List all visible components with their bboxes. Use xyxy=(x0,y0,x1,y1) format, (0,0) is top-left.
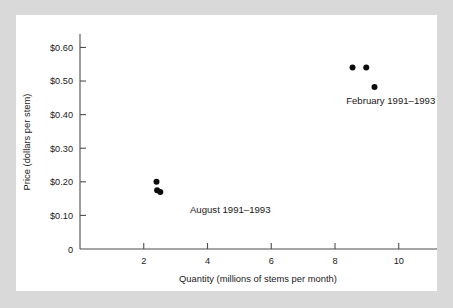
series-annotation-label: August 1991–1993 xyxy=(190,204,271,215)
y-tick-label: $0.30 xyxy=(50,144,73,154)
y-tick-label: $0.60 xyxy=(50,43,73,53)
x-axis-ticks: 246810 xyxy=(141,243,404,266)
y-tick-label: $0.20 xyxy=(50,177,73,187)
series-2 xyxy=(350,65,378,90)
x-tick-label: 6 xyxy=(269,256,274,266)
chart-panel: $0.10$0.20$0.30$0.40$0.50$0.60 246810 0 … xyxy=(16,15,437,291)
axes-group xyxy=(80,34,437,249)
series-1 xyxy=(154,179,164,195)
y-tick-label: $0.50 xyxy=(50,76,73,86)
scatter-plot: $0.10$0.20$0.30$0.40$0.50$0.60 246810 0 … xyxy=(16,15,437,291)
series-annotation-label: February 1991–1993 xyxy=(346,95,435,106)
figure-container: $0.10$0.20$0.30$0.40$0.50$0.60 246810 0 … xyxy=(0,0,453,308)
data-point xyxy=(157,189,163,195)
series-annotations-group: August 1991–1993February 1991–1993 xyxy=(190,95,435,215)
origin-tick-label: 0 xyxy=(68,245,73,255)
x-tick-label: 10 xyxy=(394,256,404,266)
x-tick-label: 8 xyxy=(332,256,337,266)
data-point xyxy=(372,84,378,90)
x-tick-label: 2 xyxy=(141,256,146,266)
y-tick-label: $0.40 xyxy=(50,110,73,120)
y-axis-ticks: $0.10$0.20$0.30$0.40$0.50$0.60 xyxy=(50,43,86,221)
y-axis-title: Price (dollars per stem) xyxy=(21,94,32,191)
x-axis-title: Quantity (millions of stems per month) xyxy=(179,273,337,284)
data-point xyxy=(350,65,356,71)
y-tick-label: $0.10 xyxy=(50,211,73,221)
data-point xyxy=(363,65,369,71)
data-point xyxy=(154,179,160,185)
x-tick-label: 4 xyxy=(205,256,210,266)
data-series-group xyxy=(154,65,378,195)
